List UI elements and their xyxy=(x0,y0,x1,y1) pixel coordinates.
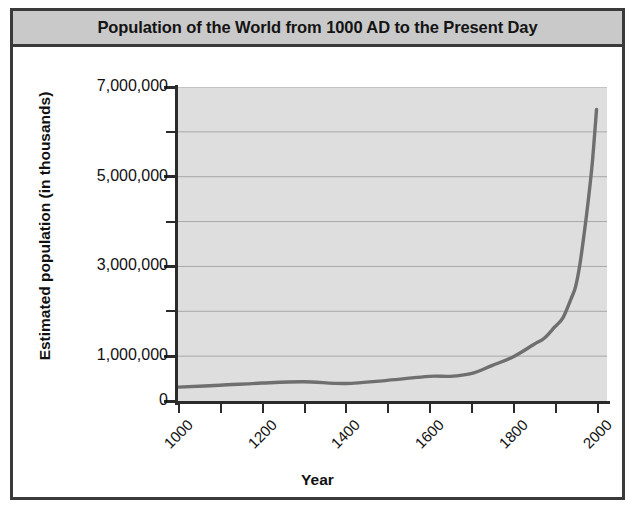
y-axis-minor-tick xyxy=(166,131,176,133)
x-axis-tick xyxy=(178,404,180,413)
x-axis-line xyxy=(175,401,610,404)
y-axis-tick-label: 0 xyxy=(23,391,168,409)
chart-title-bar: Population of the World from 1000 AD to … xyxy=(13,11,622,47)
x-axis-tick xyxy=(471,404,473,413)
x-axis-tick-label: 1600 xyxy=(401,416,447,462)
x-axis-tick xyxy=(429,404,431,413)
chart-figure: Population of the World from 1000 AD to … xyxy=(10,8,625,500)
y-axis-minor-tick xyxy=(166,310,176,312)
x-axis-tick xyxy=(220,404,222,413)
x-axis-tick xyxy=(387,404,389,413)
population-curve xyxy=(178,109,597,387)
x-axis-tick-label: 1000 xyxy=(150,416,196,462)
y-axis-tick-label: 5,000,000 xyxy=(23,167,168,185)
x-axis-tick xyxy=(304,404,306,413)
gridlines xyxy=(178,87,607,356)
x-axis-tick xyxy=(262,404,264,413)
y-axis-title: Estimated population (in thousands) xyxy=(36,76,54,376)
y-axis-tick-label: 3,000,000 xyxy=(23,256,168,274)
page-title: Population of the World from 1000 AD to … xyxy=(97,18,537,37)
x-axis-tick xyxy=(513,404,515,413)
x-axis-tick-label: 1200 xyxy=(234,416,280,462)
x-axis-tick xyxy=(345,404,347,413)
x-axis-tick-label: 1800 xyxy=(485,416,531,462)
plot-wrapper: Estimated population (in thousands) 01,0… xyxy=(13,47,622,497)
x-axis-tick xyxy=(555,404,557,413)
chart-canvas xyxy=(178,87,607,401)
x-axis-tick xyxy=(597,404,599,413)
y-axis-tick-label: 7,000,000 xyxy=(23,77,168,95)
y-axis-tick-label: 1,000,000 xyxy=(23,346,168,364)
x-axis-tick-label: 2000 xyxy=(569,416,615,462)
x-axis-tick-label: 1400 xyxy=(317,416,363,462)
plot-area xyxy=(178,87,607,401)
y-axis-minor-tick xyxy=(166,221,176,223)
x-axis-title: Year xyxy=(13,471,622,489)
